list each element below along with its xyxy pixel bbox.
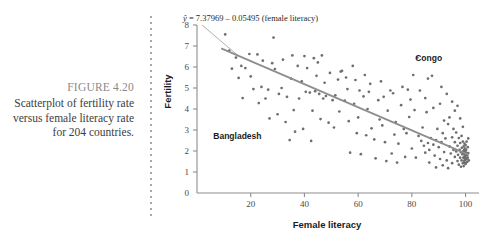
y-tick-label: 7: [185, 41, 190, 51]
data-point: [456, 105, 459, 108]
data-point: [267, 88, 270, 91]
data-point: [364, 74, 367, 77]
data-point: [409, 98, 412, 101]
data-point: [337, 78, 340, 81]
data-point: [460, 159, 463, 162]
data-point: [401, 86, 404, 89]
data-point: [441, 164, 444, 167]
data-point: [377, 99, 380, 102]
data-point: [439, 158, 442, 161]
y-tick-label: 2: [185, 146, 190, 156]
data-point: [453, 141, 456, 144]
data-point: [325, 95, 328, 98]
data-point: [392, 92, 395, 95]
data-point: [452, 128, 455, 131]
data-point: [459, 142, 462, 145]
data-point: [465, 149, 468, 152]
data-point: [268, 117, 271, 120]
data-point: [428, 149, 431, 152]
data-point: [237, 77, 240, 80]
data-point: [317, 61, 320, 64]
data-point: [351, 65, 354, 68]
data-point: [467, 137, 470, 140]
y-axis-title: Fertility: [162, 60, 173, 124]
data-point: [271, 62, 274, 65]
data-point: [458, 163, 461, 166]
data-point: [288, 139, 291, 142]
data-point: [449, 152, 452, 155]
data-point: [436, 128, 439, 131]
data-point: [327, 121, 330, 124]
data-point: [224, 33, 227, 36]
data-point: [311, 109, 314, 112]
annotation-congo: Congo: [415, 53, 442, 63]
data-point: [462, 126, 465, 129]
x-tick-label: 80: [407, 199, 417, 209]
data-point: [431, 74, 434, 77]
data-point: [427, 77, 430, 80]
data-point: [331, 99, 334, 102]
data-point: [329, 72, 332, 75]
data-point: [304, 90, 307, 93]
data-point: [291, 54, 294, 57]
y-axis: 012345678: [185, 20, 198, 198]
data-point: [459, 156, 462, 159]
data-point: [451, 162, 454, 165]
data-point: [257, 102, 260, 105]
vertical-dotted-divider: [150, 16, 152, 217]
data-point: [466, 156, 469, 159]
x-axis: 20406080100: [197, 193, 479, 209]
x-tick-label: 60: [354, 199, 364, 209]
data-point: [354, 79, 357, 82]
data-point: [306, 67, 309, 70]
data-point: [256, 53, 259, 56]
data-point: [457, 153, 460, 156]
x-tick-label: 100: [459, 199, 473, 209]
data-point: [465, 140, 468, 143]
data-point: [310, 140, 313, 143]
caption-line-1: Scatterplot of fertility rate: [0, 96, 134, 111]
data-point: [314, 90, 317, 93]
data-point: [319, 118, 322, 121]
data-point: [415, 156, 418, 159]
data-point: [370, 127, 373, 130]
data-point: [390, 152, 393, 155]
data-point: [294, 130, 297, 133]
data-point: [264, 97, 267, 100]
data-point: [374, 157, 377, 160]
regression-equation-label: ŷ = 7.37969 – 0.05495 (female literacy): [182, 13, 318, 23]
figure-number-label: FIGURE 4.20: [0, 80, 134, 95]
data-point: [365, 134, 368, 137]
x-tick-label: 40: [300, 199, 310, 209]
data-point: [393, 133, 396, 136]
data-point: [466, 146, 469, 149]
data-point: [433, 154, 436, 157]
data-point: [382, 95, 385, 98]
data-point: [274, 68, 277, 71]
data-point: [435, 166, 438, 169]
data-point: [467, 159, 470, 162]
caption-line-2: versus female literacy rate: [0, 111, 134, 126]
data-point: [231, 67, 234, 70]
data-point: [427, 142, 430, 145]
data-point: [292, 109, 295, 112]
data-point: [444, 137, 447, 140]
data-point: [280, 87, 283, 90]
y-tick-label: 5: [185, 83, 190, 93]
data-point: [462, 165, 465, 168]
data-point: [425, 111, 428, 114]
data-point: [460, 165, 463, 168]
data-point: [437, 146, 440, 149]
data-point: [419, 89, 422, 92]
data-point: [451, 136, 454, 139]
data-point: [396, 161, 399, 164]
data-point: [432, 107, 435, 110]
data-point: [411, 147, 414, 150]
data-point: [373, 138, 376, 141]
y-tick-label: 6: [185, 62, 190, 72]
figure-root: FIGURE 4.20 Scatterplot of fertility rat…: [0, 0, 484, 233]
data-point: [355, 132, 358, 135]
y-axis-title-wrapper: Fertility: [159, 0, 175, 233]
data-point: [455, 131, 458, 134]
data-point: [423, 144, 426, 147]
